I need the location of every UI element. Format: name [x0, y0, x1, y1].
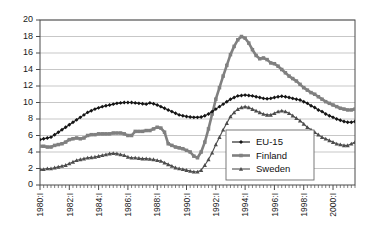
x-tick-label-1990:I: 1990:I [182, 193, 192, 217]
data-point-finland-1982:I [68, 138, 72, 142]
data-point-finland-1999:IV [328, 102, 332, 106]
data-point-finland-1991:I [199, 150, 203, 154]
data-point-finland-1992:II [218, 86, 222, 90]
x-tick-label-1992:I: 1992:I [211, 193, 221, 217]
data-point-finland-1997:IV [298, 83, 302, 87]
y-tick-label-8: 8 [28, 113, 33, 123]
data-point-finland-1988:I [155, 126, 159, 130]
data-point-finland-1983:III [90, 133, 94, 137]
data-point-finland-1989:III [177, 146, 181, 150]
data-point-finland-1984:IV [108, 132, 112, 136]
data-point-finland-2001:II [350, 108, 354, 112]
data-point-finland-1982:IV [79, 137, 83, 141]
data-point-finland-1990:IV [196, 156, 200, 160]
data-point-finland-1997:I [287, 74, 291, 78]
data-point-finland-1984:I [97, 132, 101, 136]
x-tick-label-1996:I: 1996:I [270, 193, 280, 217]
x-tick-label-2000:I: 2000:I [328, 193, 338, 217]
data-point-finland-1990:I [185, 149, 189, 153]
data-point-finland-1997:II [291, 77, 295, 81]
data-point-finland-1995:I [258, 57, 262, 61]
data-point-finland-1996:IV [284, 71, 288, 75]
x-tick-label-1998:I: 1998:I [299, 193, 309, 217]
data-point-finland-1993:IV [240, 35, 244, 39]
data-point-finland-1997:III [295, 79, 299, 83]
data-point-finland-1998:IV [313, 93, 317, 97]
chart-container: 02468101214161820 1980:I1982:I1984:I1986… [0, 0, 368, 238]
data-point-finland-1987:II [144, 129, 148, 133]
y-tick-label-2: 2 [28, 163, 33, 173]
data-point-finland-1986:IV [137, 130, 141, 134]
data-point-finland-1983:II [86, 134, 90, 138]
data-point-finland-1989:IV [181, 147, 185, 151]
y-tick-label-10: 10 [23, 97, 33, 107]
data-point-finland-1986:I [126, 134, 130, 138]
data-point-finland-1992:I [214, 97, 218, 101]
data-point-finland-1981:II [57, 143, 61, 147]
data-point-finland-1988:III [163, 130, 167, 134]
data-point-finland-2001:I [346, 108, 350, 112]
data-point-finland-1988:II [159, 126, 163, 130]
data-point-finland-1983:IV [93, 133, 97, 137]
data-point-finland-1985:III [119, 131, 123, 135]
data-point-finland-1987:III [148, 129, 152, 133]
data-point-finland-1999:III [324, 100, 328, 104]
data-point-finland-1985:II [115, 131, 119, 135]
data-point-finland-1986:III [133, 130, 137, 134]
data-point-finland-1984:II [101, 132, 105, 136]
data-point-finland-1980:II [42, 144, 46, 148]
x-tick-label-1980:I: 1980:I [35, 193, 45, 217]
data-point-finland-1993:III [236, 38, 240, 42]
data-point-finland-1990:III [192, 154, 196, 158]
data-point-finland-1998:III [309, 91, 313, 95]
data-point-finland-1999:II [320, 97, 324, 101]
y-tick-label-6: 6 [28, 130, 33, 140]
unemployment-rate-line-chart: 02468101214161820 1980:I1982:I1984:I1986… [0, 0, 368, 238]
data-point-finland-1990:II [188, 150, 192, 154]
y-tick-label-12: 12 [23, 80, 33, 90]
data-point-finland-1992:III [221, 74, 225, 78]
data-point-finland-1993:I [229, 53, 233, 57]
x-tick-label-1988:I: 1988:I [152, 193, 162, 217]
data-point-finland-1994:II [247, 41, 251, 45]
data-point-finland-1982:III [75, 136, 79, 140]
data-point-finland-1980:III [46, 145, 50, 149]
data-point-finland-1985:I [112, 131, 116, 135]
data-point-finland-1995:II [262, 56, 266, 60]
data-point-finland-1987:I [141, 130, 145, 134]
data-point-finland-1996:II [276, 64, 280, 68]
chart-legend: EU-15FinlandSweden [226, 130, 314, 180]
data-point-finland-1982:II [71, 137, 75, 141]
y-tick-label-14: 14 [23, 64, 33, 74]
y-tick-label-4: 4 [28, 146, 33, 156]
data-point-finland-1988:IV [166, 142, 170, 146]
x-tick-label-1994:I: 1994:I [240, 193, 250, 217]
data-point-finland-1987:IV [152, 127, 156, 130]
data-point-finland-1998:II [306, 88, 310, 92]
data-point-finland-1995:IV [269, 61, 273, 65]
data-point-finland-1998:I [302, 86, 306, 90]
y-tick-label-0: 0 [28, 179, 33, 189]
data-point-finland-1980:IV [49, 145, 53, 149]
legend-label-sweden: Sweden [256, 163, 290, 174]
data-point-finland-1986:II [130, 134, 134, 138]
data-point-finland-1996:I [273, 62, 277, 66]
data-point-finland-2000:III [339, 107, 343, 111]
data-point-finland-1996:III [280, 68, 284, 72]
data-point-finland-1989:II [174, 145, 178, 149]
data-point-finland-1981:IV [64, 140, 68, 144]
data-point-finland-1994:I [243, 36, 247, 40]
y-tick-label-18: 18 [23, 31, 33, 41]
data-point-finland-1991:II [203, 140, 207, 144]
data-point-finland-1991:III [207, 127, 211, 130]
data-point-finland-1995:III [265, 58, 269, 62]
data-point-finland-1999:I [317, 95, 321, 99]
data-point-finland-1992:IV [225, 64, 229, 68]
x-tick-label-1984:I: 1984:I [94, 193, 104, 217]
data-point-finland-1984:III [104, 132, 108, 136]
data-point-finland-1989:I [170, 144, 174, 148]
data-point-finland-1981:III [60, 142, 64, 146]
y-tick-label-16: 16 [23, 47, 33, 57]
y-tick-label-20: 20 [23, 14, 33, 24]
data-point-finland-1994:IV [254, 54, 258, 58]
